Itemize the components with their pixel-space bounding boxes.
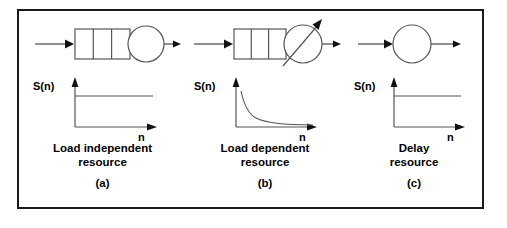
- panel-a-caption: Load independent resource: [21, 142, 184, 169]
- input-arrow-icon: [35, 40, 74, 49]
- caption-line-2: resource: [346, 156, 482, 170]
- output-arrow-icon: [322, 41, 341, 48]
- caption-line-1: Load dependent: [186, 142, 344, 156]
- y-axis-label: S(n): [354, 80, 376, 92]
- queue-box: [234, 29, 286, 59]
- panel-a-index: (a): [21, 177, 184, 189]
- queue-box: [75, 29, 130, 59]
- panel-c-graph: S(n) n: [346, 69, 482, 141]
- x-axis: [75, 124, 157, 131]
- panel-load-independent: S(n) n Load independent resource: [21, 11, 184, 207]
- panel-c-diagram: [346, 13, 482, 75]
- panel-b-diagram: [186, 13, 344, 75]
- panel-b-index: (b): [186, 177, 344, 189]
- caption-line-1: Delay: [346, 142, 482, 156]
- server-circle: [128, 26, 164, 62]
- panel-b-graph: S(n) n: [186, 69, 344, 141]
- panel-b-caption: Load dependent resource: [186, 142, 344, 169]
- input-arrow-icon: [358, 40, 393, 49]
- panel-a-diagram: [21, 13, 184, 75]
- caption-line-1: Load independent: [21, 142, 184, 156]
- data-curve-decaying: [241, 91, 313, 125]
- server-circle: [393, 25, 431, 63]
- panel-c-caption: Delay resource: [346, 142, 482, 169]
- figure-root: S(n) n Load independent resource: [0, 0, 507, 228]
- y-axis: [72, 77, 79, 127]
- output-arrow-icon: [164, 41, 181, 48]
- y-axis: [233, 77, 240, 127]
- panel-load-dependent: S(n) n Load dependent resource: [186, 11, 344, 207]
- panel-delay-resource: S(n) n Delay resource (c): [346, 11, 482, 207]
- y-axis: [391, 77, 398, 127]
- y-axis-label: S(n): [194, 80, 216, 92]
- panel-c-index: (c): [346, 177, 482, 189]
- input-arrow-icon: [194, 40, 233, 49]
- x-axis: [394, 124, 465, 131]
- caption-line-2: resource: [186, 156, 344, 170]
- output-arrow-icon: [431, 41, 461, 48]
- panel-a-graph: S(n) n: [21, 69, 184, 141]
- caption-line-2: resource: [21, 156, 184, 170]
- figure-border: S(n) n Load independent resource: [17, 9, 484, 209]
- y-axis-label: S(n): [33, 80, 55, 92]
